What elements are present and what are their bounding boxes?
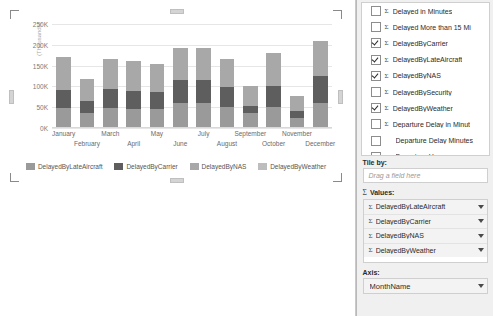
legend-label: DelayedByLateAircraft <box>38 163 103 170</box>
stacked-bar[interactable] <box>290 96 304 128</box>
gridline <box>52 128 332 129</box>
field-list-item[interactable]: ΣDelayed in Minutes <box>362 3 489 19</box>
field-checkbox[interactable] <box>371 6 381 16</box>
stacked-bar[interactable] <box>56 57 70 128</box>
bar-segment[interactable] <box>80 101 94 113</box>
field-list-item[interactable]: Departure Delay Minutes <box>362 133 489 149</box>
stacked-bar[interactable] <box>243 86 257 128</box>
field-list-item[interactable]: ΣDelayed More than 15 Mi <box>362 19 489 35</box>
stacked-bar[interactable] <box>173 48 187 128</box>
bar-segment[interactable] <box>150 92 164 109</box>
resize-handle-top[interactable] <box>170 9 184 14</box>
resize-handle-right[interactable] <box>338 90 343 104</box>
field-checkbox[interactable] <box>371 71 381 81</box>
bar-segment[interactable] <box>266 53 280 86</box>
bar-segment[interactable] <box>313 103 327 128</box>
legend-item[interactable]: DelayedByWeather <box>258 163 326 170</box>
bar-segment[interactable] <box>126 61 140 91</box>
bar-series-group[interactable] <box>52 24 332 128</box>
field-checkbox[interactable] <box>371 22 381 32</box>
report-canvas[interactable]: (Thousands) 0K50K100K150K200K250K Januar… <box>0 0 356 316</box>
bar-segment[interactable] <box>266 86 280 107</box>
value-field-chip[interactable]: ΣDelayedByCarrier <box>364 215 487 230</box>
bar-segment[interactable] <box>243 106 257 113</box>
field-list-item[interactable]: ΣDeparture Delay in Minut <box>362 116 489 132</box>
bar-segment[interactable] <box>173 48 187 80</box>
bar-segment[interactable] <box>220 87 234 107</box>
field-checkbox[interactable] <box>371 119 381 129</box>
stacked-bar[interactable] <box>80 79 94 129</box>
bar-segment[interactable] <box>196 80 210 103</box>
value-field-chip[interactable]: ΣDelayedByWeather <box>364 244 487 258</box>
resize-handle-top-right[interactable] <box>333 10 342 19</box>
stacked-column-chart-visual[interactable]: (Thousands) 0K50K100K150K200K250K Januar… <box>10 10 342 182</box>
chart-legend[interactable]: DelayedByLateAircraftDelayedByCarrierDel… <box>20 158 332 174</box>
resize-handle-left[interactable] <box>9 90 14 104</box>
bar-segment[interactable] <box>243 86 257 105</box>
field-checkbox[interactable] <box>371 38 381 48</box>
bar-segment[interactable] <box>220 107 234 128</box>
value-field-chip[interactable]: ΣDelayedByLateAircraft <box>364 200 487 215</box>
bar-segment[interactable] <box>196 103 210 128</box>
chevron-down-icon[interactable] <box>478 205 484 209</box>
field-list[interactable]: ΣDelayed in MinutesΣDelayed More than 15… <box>361 2 490 156</box>
stacked-bar[interactable] <box>103 59 117 128</box>
stacked-bar[interactable] <box>220 59 234 128</box>
legend-item[interactable]: DelayedByCarrier <box>114 163 177 170</box>
bar-segment[interactable] <box>313 76 327 103</box>
stacked-bar[interactable] <box>150 64 164 128</box>
legend-item[interactable]: DelayedByNAS <box>190 163 247 170</box>
bar-segment[interactable] <box>220 59 234 87</box>
resize-handle-top-left[interactable] <box>10 10 19 19</box>
field-list-item[interactable]: ΣDelayedBySecurity <box>362 84 489 100</box>
axis-field-chip[interactable]: MonthName <box>363 278 488 294</box>
bar-segment[interactable] <box>56 57 70 89</box>
chevron-down-icon[interactable] <box>478 234 484 238</box>
bar-segment[interactable] <box>290 111 304 118</box>
bar-slot <box>75 24 98 128</box>
bar-segment[interactable] <box>103 89 117 108</box>
resize-handle-bottom-left[interactable] <box>10 173 19 182</box>
field-checkbox[interactable] <box>371 55 381 65</box>
chevron-down-icon[interactable] <box>478 248 484 252</box>
chevron-down-icon[interactable] <box>478 284 484 288</box>
field-checkbox[interactable] <box>371 152 381 156</box>
bar-segment[interactable] <box>103 59 117 90</box>
bar-segment[interactable] <box>173 103 187 128</box>
bar-segment[interactable] <box>80 113 94 128</box>
field-list-item[interactable]: ΣDelayedByNAS <box>362 68 489 84</box>
field-list-item[interactable]: ΣDelayedByLateAircraft <box>362 52 489 68</box>
resize-handle-bottom-right[interactable] <box>333 173 342 182</box>
bar-segment[interactable] <box>56 108 70 128</box>
stacked-bar[interactable] <box>126 61 140 128</box>
tile-by-dropzone[interactable]: Drag a field here <box>363 168 488 183</box>
field-checkbox[interactable] <box>371 87 381 97</box>
stacked-bar[interactable] <box>313 41 327 128</box>
bar-segment[interactable] <box>266 107 280 128</box>
chevron-down-icon[interactable] <box>478 219 484 223</box>
bar-segment[interactable] <box>56 90 70 108</box>
bar-segment[interactable] <box>126 109 140 128</box>
bar-segment[interactable] <box>80 79 94 101</box>
field-checkbox[interactable] <box>371 136 381 146</box>
bar-segment[interactable] <box>196 48 210 80</box>
field-list-item[interactable]: Departure Hour <box>362 149 489 156</box>
bar-segment[interactable] <box>290 96 304 112</box>
field-list-item[interactable]: ΣDelayedByWeather <box>362 100 489 116</box>
bar-segment[interactable] <box>103 108 117 128</box>
bar-segment[interactable] <box>150 109 164 128</box>
bar-segment[interactable] <box>173 80 187 103</box>
value-field-chip[interactable]: ΣDelayedByNAS <box>364 229 487 244</box>
bar-segment[interactable] <box>126 91 140 108</box>
field-list-item[interactable]: ΣDelayedByCarrier <box>362 35 489 51</box>
bar-segment[interactable] <box>150 64 164 92</box>
field-label: DelayedByCarrier <box>393 40 448 47</box>
stacked-bar[interactable] <box>196 48 210 128</box>
values-well[interactable]: ΣDelayedByLateAircraftΣDelayedByCarrierΣ… <box>363 199 488 263</box>
legend-item[interactable]: DelayedByLateAircraft <box>26 163 103 170</box>
bar-segment[interactable] <box>243 113 257 128</box>
bar-segment[interactable] <box>313 41 327 77</box>
field-checkbox[interactable] <box>371 103 381 113</box>
resize-handle-bottom[interactable] <box>170 178 184 183</box>
stacked-bar[interactable] <box>266 53 280 128</box>
